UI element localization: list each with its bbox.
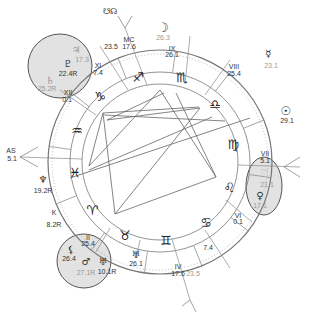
midheaven-value: 17.6 — [122, 43, 136, 50]
mercury-value: 23.1 — [264, 62, 278, 69]
house-iv-value: 17.6 — [171, 270, 185, 277]
sign-scorpio: ♏ — [176, 71, 188, 84]
chiron-value: 8.2R — [47, 221, 62, 228]
pluto-icon: ♇ — [64, 59, 73, 69]
sign-gemini: ♊ — [160, 234, 172, 247]
sign-pisces: ♓ — [69, 166, 81, 179]
vertex-icon: ♡ — [260, 168, 267, 178]
nodes-value-bottom: 23.5 — [186, 270, 200, 277]
aspect-lines — [70, 90, 250, 214]
mercury-icon: ☿ — [265, 49, 271, 59]
lilith-value: 26.4 — [62, 255, 76, 262]
sign-virgo: ♍ — [227, 138, 239, 151]
sign-aries: ♈ — [86, 204, 98, 217]
midheaven-label: MC — [124, 36, 135, 43]
house-vii-value: 5.1 — [260, 157, 270, 164]
house-vi-value: 0.1 — [233, 218, 243, 225]
jupiter-icon: ♃ — [72, 45, 81, 55]
house-vii-label: VII — [261, 150, 270, 157]
sign-libra: ♎ — [209, 98, 221, 111]
house-viii-value: 25.4 — [227, 70, 241, 77]
pluto-value: 22.4R — [59, 70, 78, 77]
uranus-icon: ♅ — [99, 257, 108, 267]
south-north-node-icon: ☋☊ — [103, 7, 117, 17]
sign-aquarius: ♒ — [71, 124, 83, 137]
sign-sagittarius: ♐ — [132, 71, 144, 84]
house-xi-value: 7.4 — [93, 69, 103, 76]
sun-icon: ☉ — [281, 106, 292, 116]
sign-taurus: ♉ — [119, 229, 131, 242]
sun-value: 29.1 — [280, 117, 294, 124]
house-ix-value: 26.1 — [165, 51, 179, 58]
house-xii-label: XII — [64, 89, 73, 96]
house-iv-label: IV — [175, 263, 182, 270]
sign-cancer: ♋ — [200, 216, 212, 229]
vertex-value: 21.1 — [260, 181, 274, 188]
house-xii-value: 0.1 — [62, 96, 72, 103]
house-viii-label: VIII — [229, 63, 240, 70]
sign-leo: ♌ — [223, 181, 235, 194]
house-xi-label: XI — [95, 62, 102, 69]
nodes-value-top: 23.5 — [104, 43, 118, 50]
mars-value: 27.1R — [77, 269, 96, 276]
moon-value: 26.3 — [156, 34, 170, 41]
saturn-value: 25.2R — [38, 85, 57, 92]
lilith-icon: ⚸ — [67, 245, 74, 255]
neptune-icon: ♆ — [39, 175, 48, 185]
ascendant-value: 5.1 — [7, 155, 17, 162]
moon-icon: ☽ — [157, 23, 169, 33]
jupiter-value: 17.3 — [75, 56, 89, 63]
uranus-value: 10.1R — [98, 268, 117, 275]
sign-capricorn: ♑ — [94, 90, 106, 103]
ascendant-label: AS — [6, 147, 15, 154]
neptune-value: 19.2R — [34, 187, 53, 194]
mars-icon: ♂ — [82, 257, 91, 267]
house-iii-glyph: ♅ — [132, 250, 141, 260]
house-iii-value: 26.1 — [129, 260, 143, 267]
venus-value: 17.1 — [253, 202, 267, 209]
venus-icon: ♀ — [256, 191, 263, 201]
house-v-value: 7.4 — [203, 244, 213, 251]
chiron-icon: K — [52, 209, 57, 216]
house-ii-value: 25.4 — [81, 240, 95, 247]
